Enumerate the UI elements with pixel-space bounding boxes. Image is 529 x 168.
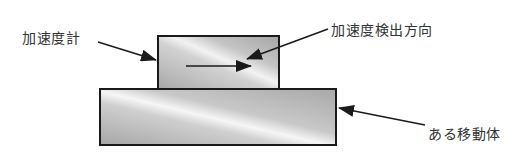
accelerometer-label: 加速度計 — [22, 27, 80, 47]
accelerometer-leader-arrow — [98, 42, 156, 60]
accelerometer-box — [158, 36, 279, 89]
moving-body-leader-arrow — [339, 108, 425, 125]
detection-direction-label: 加速度検出方向 — [331, 19, 433, 39]
moving-body-box — [100, 89, 336, 145]
moving-body-label: ある移動体 — [428, 123, 501, 143]
